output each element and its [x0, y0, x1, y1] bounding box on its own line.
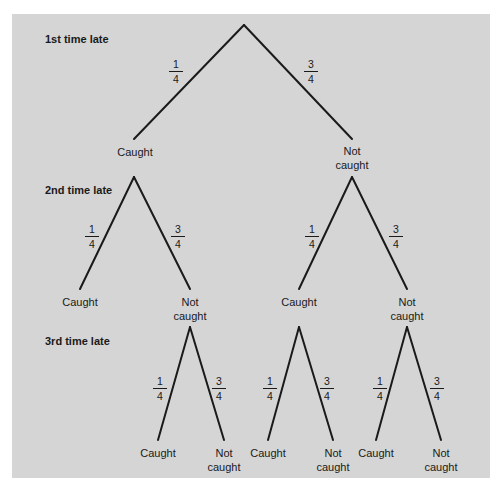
branch-l1-caught	[134, 25, 244, 139]
outcome-l3c-caught: Caught	[346, 446, 406, 460]
tree-branches	[0, 0, 503, 491]
outcome-l1-not-caught: Notcaught	[322, 144, 382, 172]
outcome-l3a-caught: Caught	[128, 446, 188, 460]
prob-l2b-caught: 14	[305, 223, 319, 250]
prob-l3a-caught: 14	[153, 375, 167, 402]
outcome-l2b-not-caught: Notcaught	[377, 295, 437, 323]
prob-l2a-caught: 14	[85, 223, 99, 250]
prob-l2b-not-caught: 34	[389, 223, 403, 250]
branch-l1-not-caught	[244, 25, 352, 139]
outcome-l3c-not-caught: Notcaught	[411, 446, 471, 474]
level-label-2nd: 2nd time late	[45, 184, 112, 196]
prob-l3b-not-caught: 34	[320, 375, 334, 402]
prob-l1-caught: 14	[169, 58, 183, 85]
prob-l1-not-caught: 34	[304, 58, 318, 85]
outcome-l3b-caught: Caught	[238, 446, 298, 460]
prob-l3c-caught: 14	[373, 375, 387, 402]
outcome-l2a-not-caught: Notcaught	[160, 295, 220, 323]
prob-l3c-not-caught: 34	[430, 375, 444, 402]
prob-l2a-not-caught: 34	[171, 223, 185, 250]
level-label-1st: 1st time late	[45, 33, 109, 45]
outcome-l1-caught: Caught	[105, 145, 165, 159]
prob-l3a-not-caught: 34	[212, 375, 226, 402]
outcome-l2b-caught: Caught	[269, 295, 329, 309]
level-label-3rd: 3rd time late	[45, 335, 110, 347]
outcome-l2a-caught: Caught	[50, 295, 110, 309]
prob-l3b-caught: 14	[263, 375, 277, 402]
